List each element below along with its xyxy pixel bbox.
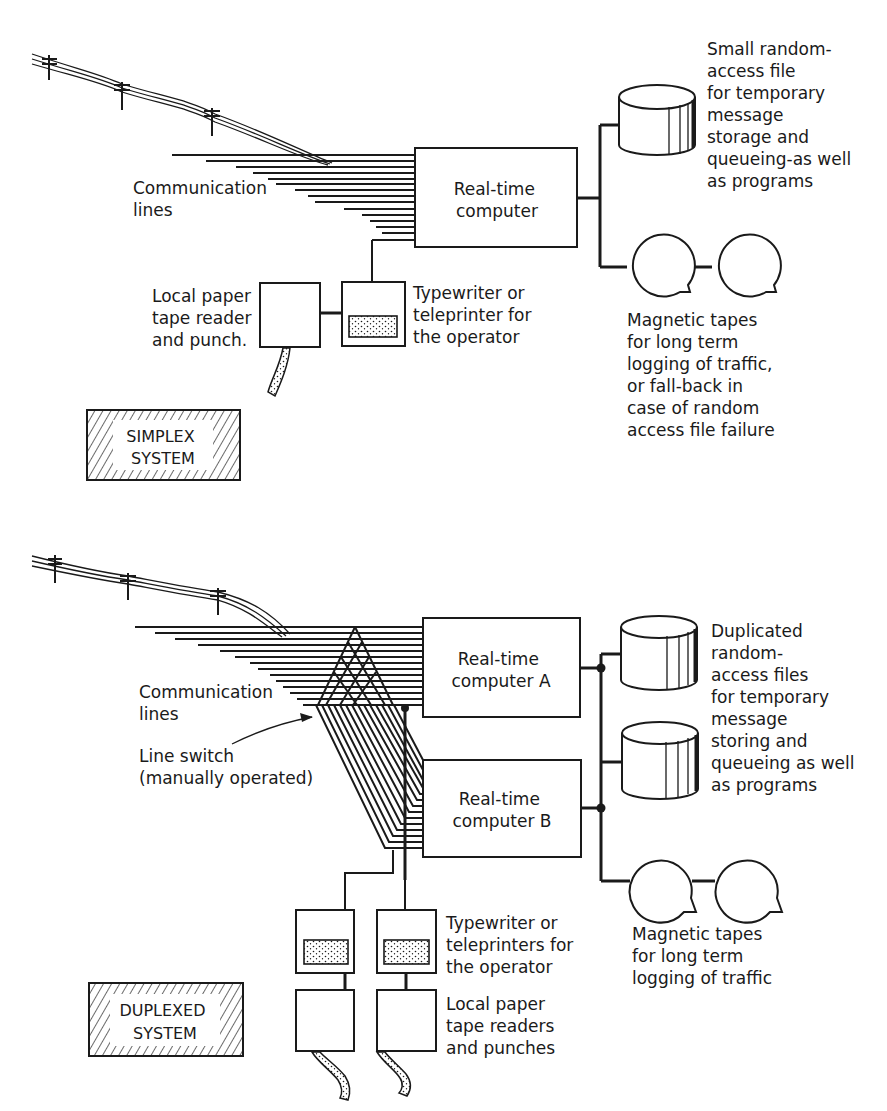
duplexed-system: Communication lines Line switch (manuall… <box>32 555 860 1100</box>
simplex-typewriter-label: Typewriter or teleprinter for the operat… <box>412 283 537 347</box>
line-switch-label: Line switch (manually operated) <box>139 746 313 788</box>
typewriter-1-link <box>345 850 393 910</box>
line-switch-arrow-icon <box>232 713 313 744</box>
simplex-disk-icon <box>619 85 695 155</box>
duplex-typewriter-label: Typewriter or teleprinters for the opera… <box>445 913 579 977</box>
system-diagram: Communication lines Real-time computer <box>0 0 887 1111</box>
duplex-magnetic-tapes-icon <box>630 861 782 923</box>
paper-tape-icon <box>268 348 290 396</box>
duplex-paper-tape-label: Local paper tape readers and punches <box>446 994 560 1058</box>
simplex-system-badge: SIMPLEX SYSTEM <box>87 410 240 480</box>
telephone-poles-icon <box>32 555 290 637</box>
duplex-switch-to-computer-b-lines <box>316 705 423 848</box>
paper-tape-icon <box>377 1052 410 1096</box>
duplex-disk-1-icon <box>621 616 697 690</box>
duplexed-system-badge: DUPLEXED SYSTEM <box>89 983 243 1056</box>
paper-tape-reader-2-icon <box>377 990 436 1051</box>
duplex-communication-lines-label: Communication lines <box>139 682 278 724</box>
duplex-disk-label: Duplicated random- access files for temp… <box>711 621 860 795</box>
duplex-disk-2-icon <box>622 722 698 799</box>
simplex-tapes-label: Magnetic tapes for long term logging of … <box>627 310 778 440</box>
paper-tape-reader-1-icon <box>296 990 354 1051</box>
telephone-poles-icon <box>32 54 332 165</box>
duplex-tapes-label: Magnetic tapes for long term logging of … <box>632 924 772 988</box>
simplex-communication-lines-label: Communication lines <box>133 178 272 220</box>
simplex-disk-label: Small random- access file for temporary … <box>707 39 857 191</box>
paper-tape-icon <box>312 1052 350 1100</box>
simplex-system: Communication lines Real-time computer <box>32 39 857 480</box>
simplex-paper-tape-label: Local paper tape reader and punch. <box>152 286 257 350</box>
simplex-paper-tape-reader-icon <box>260 283 320 347</box>
